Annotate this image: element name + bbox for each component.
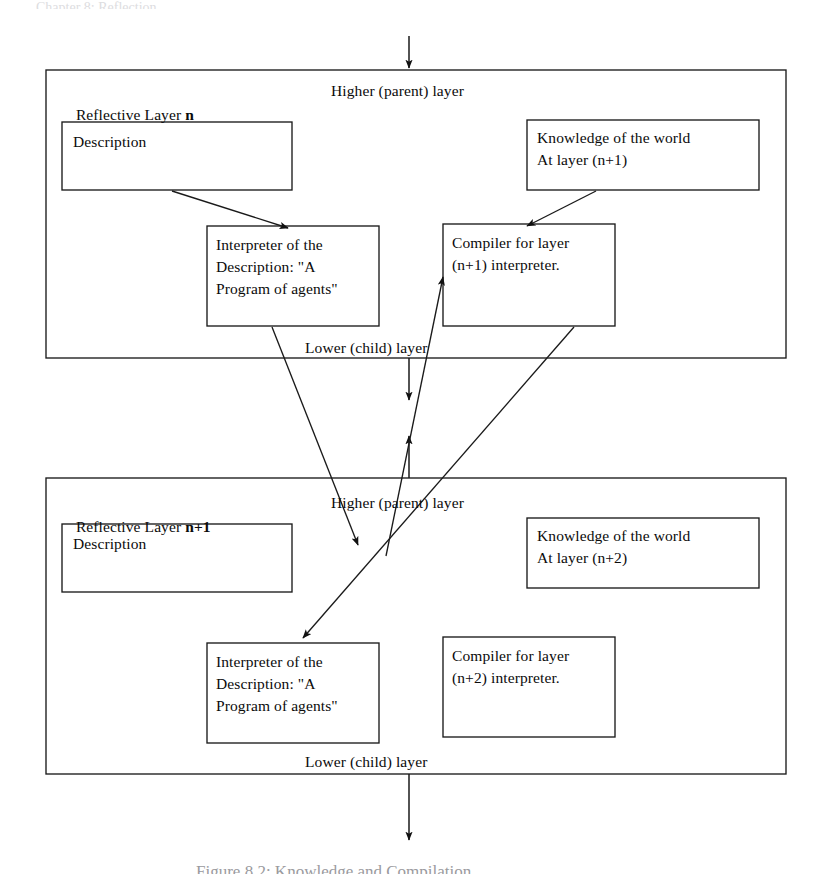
layer-n-knowledge-line-2: At layer (n+1) — [537, 149, 627, 171]
layer-n-plus-1-compiler-line-1: Compiler for layer — [452, 645, 569, 667]
layer-n-plus-1-interpreter-line-1: Interpreter of the — [216, 651, 323, 673]
layer-n-interpreter-line-2: Description: "A — [216, 256, 316, 278]
layer-n-knowledge-line-1: Knowledge of the world — [537, 127, 690, 149]
layer-n-lower-label: Lower (child) layer — [305, 337, 427, 359]
layer-n-interpreter-line-3: Program of agents" — [216, 278, 338, 300]
layer-n-plus-1-lower-label: Lower (child) layer — [305, 751, 427, 773]
layer-n-plus-1-description-line-1: Description — [73, 533, 146, 555]
layer-n-interpreter-line-1: Interpreter of the — [216, 234, 323, 256]
page-header-fragment: Chapter 8: Reflection — [36, 0, 266, 9]
figure-caption-fragment: Figure 8.2: Knowledge and Compilation — [196, 862, 626, 874]
layer-n-plus-1-interpreter-line-3: Program of agents" — [216, 695, 338, 717]
layer-n-compiler-line-1: Compiler for layer — [452, 232, 569, 254]
layer-n-plus-1-higher-label: Higher (parent) layer — [331, 492, 464, 514]
layer-n-title-emphasis: n — [185, 106, 194, 123]
layer-n-description-line-1: Description — [73, 131, 146, 153]
layer-n-plus-1-interpreter-line-2: Description: "A — [216, 673, 316, 695]
layer-n-plus-1-knowledge-line-2: At layer (n+2) — [537, 547, 627, 569]
reflection-figure: Chapter 8: Reflection — [0, 0, 819, 874]
layer-n-title-prefix: Reflective Layer — [76, 106, 185, 123]
layer-n-plus-1-title-emphasis: n+1 — [185, 518, 211, 535]
layer-n-higher-label: Higher (parent) layer — [331, 80, 464, 102]
layer-n-plus-1-knowledge-line-1: Knowledge of the world — [537, 525, 690, 547]
layer-n-compiler-line-2: (n+1) interpreter. — [452, 254, 560, 276]
layer-n-plus-1-compiler-line-2: (n+2) interpreter. — [452, 667, 560, 689]
